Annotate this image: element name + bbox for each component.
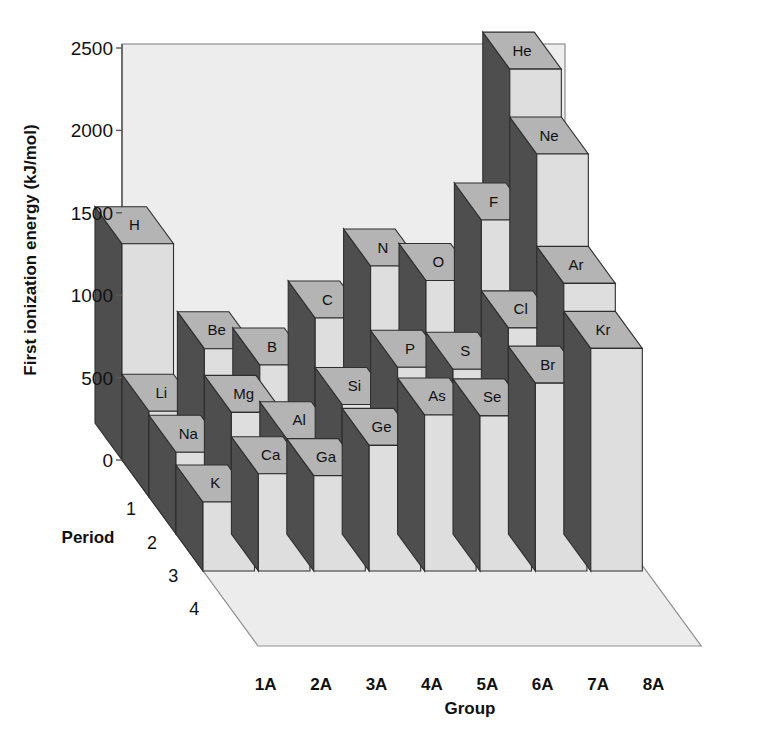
x-tick-4A: 4A <box>421 675 443 694</box>
y-tick-2000: 2000 <box>71 120 113 141</box>
bar-label-Br: Br <box>540 356 555 373</box>
y-axis-title: First ionization energy (kJ/mol) <box>21 124 40 375</box>
y-tick-1500: 1500 <box>71 203 113 224</box>
bar-label-Se: Se <box>483 388 501 405</box>
bar-label-Li: Li <box>155 384 167 401</box>
bar-label-S: S <box>460 342 470 359</box>
bar-label-Al: Al <box>292 411 305 428</box>
bar-label-As: As <box>428 387 446 404</box>
x-tick-3A: 3A <box>366 675 388 694</box>
bar-label-F: F <box>489 193 498 210</box>
x-tick-6A: 6A <box>532 675 554 694</box>
x-tick-7A: 7A <box>587 675 609 694</box>
bar-label-Kr: Kr <box>596 321 611 338</box>
y-tick-2500: 2500 <box>71 38 113 59</box>
x-tick-8A: 8A <box>643 675 665 694</box>
x-tick-2A: 2A <box>310 675 332 694</box>
bar-Kr: Kr <box>564 311 643 571</box>
ionization-energy-3d-bar-chart: ation energy increases from left to righ… <box>0 0 776 754</box>
chart-scene: HHeLiBeBCNOFNeNaMgAlSiPSClArKCaGaGeAsSeB… <box>95 32 701 646</box>
x-tick-5A: 5A <box>476 675 498 694</box>
x-axis-title: Group <box>445 699 496 718</box>
y-tick-1000: 1000 <box>71 285 113 306</box>
x-tick-1A: 1A <box>255 675 277 694</box>
bar-label-K: K <box>210 474 220 491</box>
bar-front-face <box>591 348 643 571</box>
bar-label-Mg: Mg <box>233 385 254 402</box>
y-tick-500: 500 <box>81 368 113 389</box>
bar-label-B: B <box>267 338 277 355</box>
bar-label-Na: Na <box>179 425 199 442</box>
bar-label-Ge: Ge <box>371 418 391 435</box>
bar-label-N: N <box>377 239 388 256</box>
bar-label-P: P <box>405 340 415 357</box>
y-tick-0: 0 <box>102 450 113 471</box>
z-tick-period-4: 4 <box>189 599 199 619</box>
bar-label-O: O <box>432 253 444 270</box>
bar-side-face <box>508 346 535 571</box>
bar-label-H: H <box>129 216 140 233</box>
z-tick-period-2: 2 <box>147 533 157 553</box>
bar-label-Ne: Ne <box>540 127 559 144</box>
bar-side-face <box>564 311 591 571</box>
bar-label-Si: Si <box>348 377 361 394</box>
bar-label-Be: Be <box>208 321 226 338</box>
z-tick-period-1: 1 <box>126 499 136 519</box>
bar-label-He: He <box>513 42 532 59</box>
bar-label-Ga: Ga <box>316 448 337 465</box>
z-tick-period-3: 3 <box>168 566 178 586</box>
bar-label-C: C <box>322 291 333 308</box>
x-axis-tick-labels: 1A2A3A4A5A6A7A8A <box>255 675 665 694</box>
z-axis-title: Period <box>62 528 115 547</box>
bar-label-Ar: Ar <box>569 256 584 273</box>
bar-side-face <box>95 207 122 460</box>
bar-label-Cl: Cl <box>514 300 528 317</box>
bar-label-Ca: Ca <box>261 446 281 463</box>
